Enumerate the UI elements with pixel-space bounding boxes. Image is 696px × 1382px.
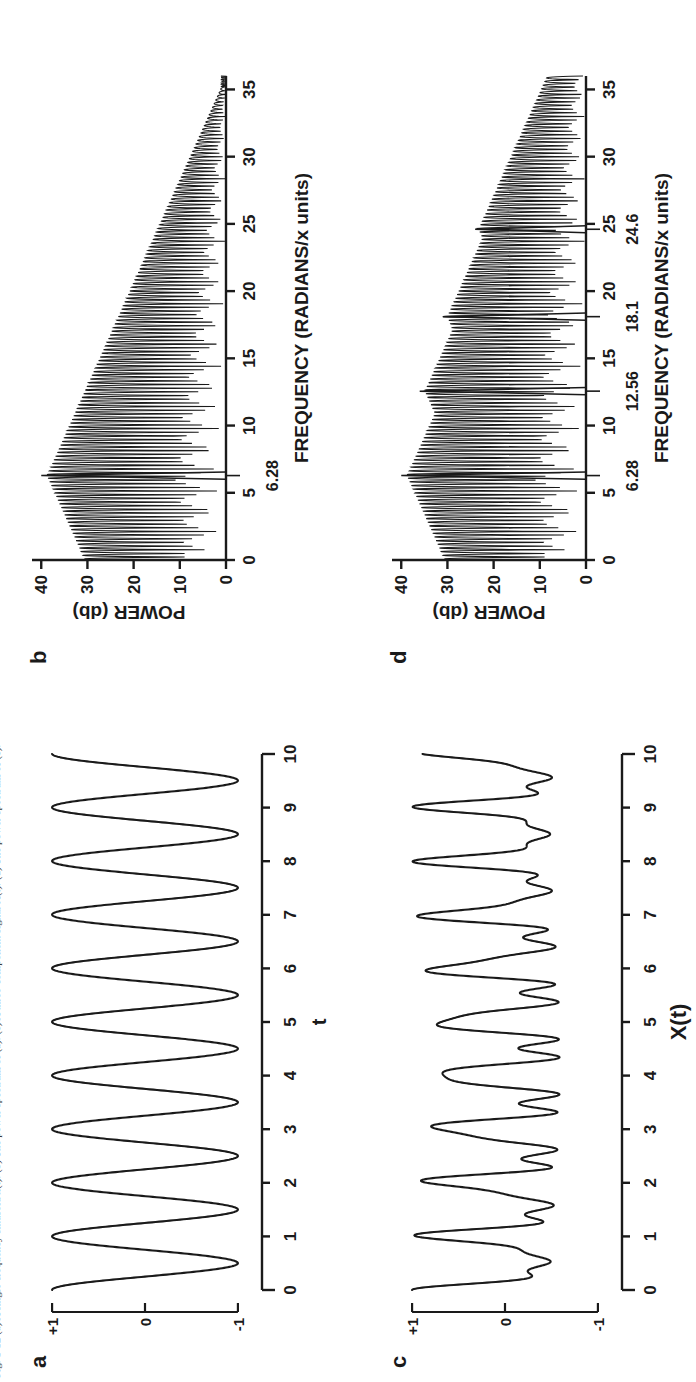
svg-text:5: 5: [641, 1017, 660, 1026]
svg-text:3: 3: [281, 1124, 300, 1133]
svg-text:0: 0: [577, 575, 596, 584]
panel-a-plot: 012345678910+10-1t: [18, 742, 318, 1342]
panel-c-plot: 012345678910+10-1X(t): [378, 742, 678, 1342]
svg-text:10: 10: [171, 575, 190, 594]
svg-text:0: 0: [641, 1285, 660, 1294]
svg-text:2: 2: [281, 1178, 300, 1187]
svg-text:6.28: 6.28: [624, 460, 641, 491]
svg-text:-1: -1: [230, 1318, 247, 1331]
svg-text:9: 9: [281, 803, 300, 812]
svg-text:4: 4: [281, 1070, 300, 1080]
svg-text:20: 20: [240, 282, 259, 301]
svg-text:40: 40: [392, 575, 411, 594]
svg-text:-1: -1: [590, 1318, 607, 1331]
svg-text:7: 7: [281, 910, 300, 919]
svg-text:4: 4: [641, 1070, 660, 1080]
svg-text:t: t: [308, 1018, 330, 1025]
svg-text:10: 10: [600, 416, 619, 435]
svg-text:8: 8: [281, 856, 300, 865]
panel-letter-d: d: [386, 651, 412, 664]
svg-text:25: 25: [240, 214, 259, 233]
svg-text:30: 30: [600, 147, 619, 166]
svg-text:40: 40: [32, 575, 51, 594]
svg-text:18.1: 18.1: [624, 301, 641, 332]
svg-text:35: 35: [240, 80, 259, 99]
figure-caption: Fig. 1-12 (a) A single-frequency sinusoi…: [0, 745, 2, 1378]
svg-text:FREQUENCY (RADIANS/x units): FREQUENCY (RADIANS/x units): [291, 173, 312, 463]
svg-text:20: 20: [600, 282, 619, 301]
svg-text:2: 2: [641, 1178, 660, 1187]
panel-letter-a: a: [26, 1356, 52, 1368]
panel-b: b 051015202530350102030406.28FREQUENCY (…: [18, 62, 318, 622]
svg-text:+1: +1: [44, 1318, 61, 1335]
svg-text:0: 0: [600, 555, 619, 564]
panel-d-plot: 051015202530350102030406.2812.5618.124.6…: [378, 62, 678, 622]
svg-text:10: 10: [240, 416, 259, 435]
svg-text:1: 1: [641, 1232, 660, 1241]
svg-text:6: 6: [281, 964, 300, 973]
svg-text:25: 25: [600, 214, 619, 233]
figure-canvas: a 012345678910+10-1t b 05101520253035010…: [0, 0, 696, 1382]
svg-text:POWER (db): POWER (db): [73, 602, 186, 623]
svg-text:5: 5: [600, 488, 619, 497]
panel-letter-b: b: [26, 651, 52, 664]
panel-b-plot: 051015202530350102030406.28FREQUENCY (RA…: [18, 62, 318, 622]
svg-text:3: 3: [641, 1124, 660, 1133]
svg-text:0: 0: [137, 1318, 154, 1326]
svg-text:0: 0: [497, 1318, 514, 1326]
svg-text:35: 35: [600, 80, 619, 99]
svg-text:8: 8: [641, 856, 660, 865]
svg-text:20: 20: [485, 575, 504, 594]
svg-text:+1: +1: [404, 1318, 421, 1335]
svg-text:10: 10: [531, 575, 550, 594]
svg-text:1: 1: [281, 1232, 300, 1241]
svg-text:12.56: 12.56: [624, 371, 641, 411]
svg-text:FREQUENCY (RADIANS/x units): FREQUENCY (RADIANS/x units): [651, 173, 672, 463]
svg-text:15: 15: [240, 349, 259, 368]
svg-text:5: 5: [281, 1017, 300, 1026]
svg-text:30: 30: [240, 147, 259, 166]
svg-text:30: 30: [438, 575, 457, 594]
svg-text:20: 20: [125, 575, 144, 594]
svg-text:24.6: 24.6: [624, 214, 641, 245]
svg-text:0: 0: [240, 555, 259, 564]
svg-text:0: 0: [281, 1285, 300, 1294]
panel-c: c 012345678910+10-1X(t): [378, 742, 678, 1342]
svg-text:15: 15: [600, 349, 619, 368]
panel-d: d 051015202530350102030406.2812.5618.124…: [378, 62, 678, 622]
svg-text:6.28: 6.28: [264, 460, 281, 491]
svg-text:0: 0: [217, 575, 236, 584]
panel-letter-c: c: [386, 1356, 412, 1368]
svg-text:6: 6: [641, 964, 660, 973]
svg-text:10: 10: [281, 745, 300, 764]
svg-text:5: 5: [240, 488, 259, 497]
svg-text:10: 10: [641, 745, 660, 764]
svg-text:30: 30: [78, 575, 97, 594]
svg-text:X(t): X(t): [666, 1004, 691, 1041]
svg-text:7: 7: [641, 910, 660, 919]
panel-a: a 012345678910+10-1t: [18, 742, 318, 1342]
svg-text:9: 9: [641, 803, 660, 812]
svg-text:POWER (db): POWER (db): [433, 602, 546, 623]
